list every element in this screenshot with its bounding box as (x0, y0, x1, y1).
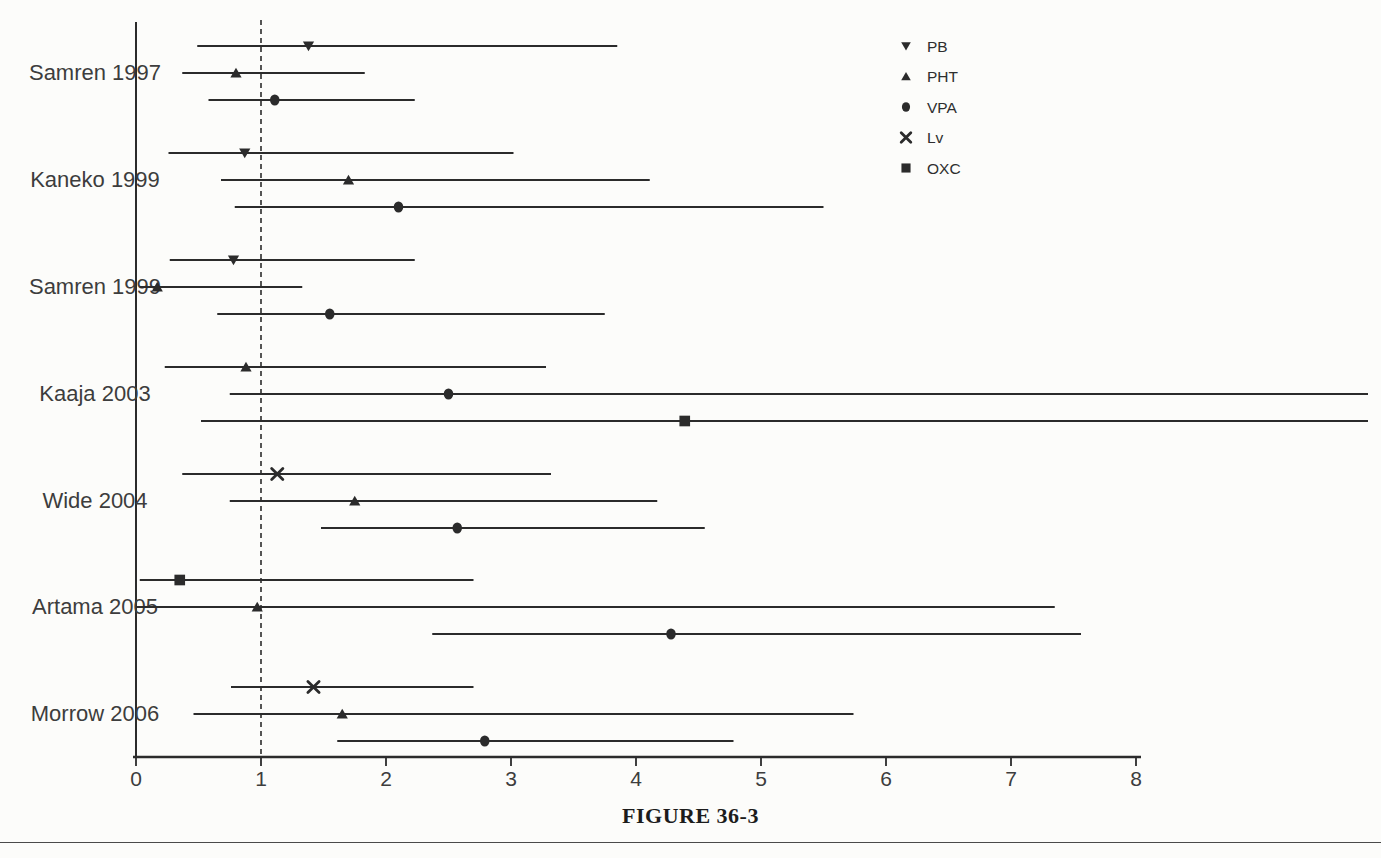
study-label: Kaneko 1999 (30, 167, 160, 192)
legend-label: Lv (927, 129, 944, 146)
x-axis-tick-label: 8 (1130, 767, 1142, 790)
x-axis-tick-label: 1 (255, 767, 267, 790)
page-divider (0, 842, 1381, 843)
figure-caption: FIGURE 36-3 (0, 803, 1381, 829)
marker-vpa (480, 735, 490, 746)
x-axis-tick-label: 4 (630, 767, 642, 790)
marker-vpa (452, 522, 462, 533)
marker-oxc (679, 416, 690, 427)
legend-marker-pht-icon (901, 72, 911, 80)
study-label: Kaaja 2003 (39, 381, 150, 406)
legend-marker-vpa-icon (902, 102, 910, 112)
marker-vpa (325, 308, 335, 319)
x-axis-tick-label: 7 (1005, 767, 1017, 790)
legend-marker-pb-icon (901, 42, 911, 50)
legend-marker-lv-icon (901, 133, 911, 143)
x-axis-tick-label: 0 (130, 767, 142, 790)
marker-vpa (444, 388, 454, 399)
x-axis-tick-label: 6 (880, 767, 892, 790)
marker-oxc (174, 575, 185, 586)
x-axis-tick-label: 5 (755, 767, 767, 790)
forest-plot-canvas: 012345678Samren 1997Kaneko 1999Samren 19… (0, 0, 1381, 858)
legend-label: OXC (927, 160, 961, 177)
study-label: Wide 2004 (42, 488, 147, 513)
marker-vpa (394, 201, 404, 212)
marker-vpa (666, 628, 676, 639)
study-label: Samren 1997 (29, 60, 161, 85)
legend-label: VPA (927, 99, 958, 116)
legend-label: PB (927, 38, 948, 55)
study-label: Morrow 2006 (31, 701, 159, 726)
forest-plot-figure: 012345678Samren 1997Kaneko 1999Samren 19… (0, 0, 1381, 858)
legend-label: PHT (927, 68, 959, 85)
x-axis-tick-label: 3 (505, 767, 517, 790)
marker-vpa (270, 94, 280, 105)
x-axis-tick-label: 2 (380, 767, 392, 790)
legend-marker-oxc-icon (901, 163, 910, 172)
